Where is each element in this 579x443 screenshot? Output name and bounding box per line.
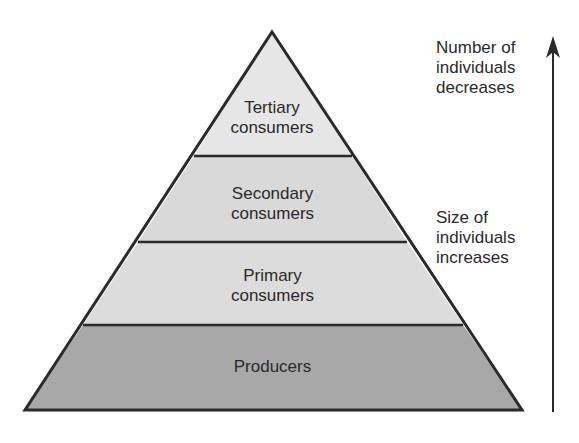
label-tertiary: Tertiary consumers bbox=[212, 98, 332, 138]
annotation-number-decreases: Number of individuals decreases bbox=[436, 38, 515, 98]
label-primary: Primary consumers bbox=[200, 266, 345, 306]
label-secondary: Secondary consumers bbox=[200, 184, 345, 224]
annotation-size-increases: Size of individuals increases bbox=[436, 208, 515, 268]
label-producers: Producers bbox=[200, 357, 345, 377]
